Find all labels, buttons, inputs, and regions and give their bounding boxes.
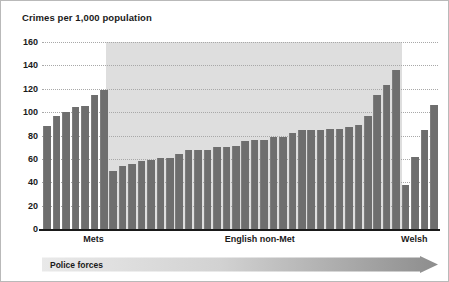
bar [317, 130, 325, 229]
bar [298, 130, 306, 229]
bar [100, 90, 108, 229]
y-tick-label: 160 [23, 37, 38, 47]
y-tick-label: 60 [28, 154, 38, 164]
bar [326, 129, 334, 230]
bar [72, 107, 80, 229]
bar [119, 166, 127, 229]
arrow-label: Police forces [50, 260, 103, 270]
y-tick-label: 140 [23, 60, 38, 70]
x-group-label-mets: Mets [83, 234, 104, 244]
bar [138, 161, 146, 229]
bar [336, 129, 344, 230]
bar [204, 150, 212, 229]
bar [213, 147, 221, 229]
bar [402, 185, 410, 229]
bar [421, 130, 429, 229]
bar [81, 106, 89, 229]
bar [307, 130, 315, 229]
bar [289, 133, 297, 229]
bar [175, 154, 183, 229]
bar [62, 112, 70, 229]
y-tick-label: 80 [28, 131, 38, 141]
y-axis: 020406080100120140160 [1, 42, 38, 229]
x-group-label-english-non-met: English non-Met [225, 234, 295, 244]
bar [355, 125, 363, 229]
bar [223, 147, 231, 229]
bar [232, 146, 240, 229]
bar [241, 141, 249, 229]
bar [373, 95, 381, 229]
bar [194, 150, 202, 229]
x-axis-line [39, 229, 440, 231]
bar [411, 157, 419, 229]
chart-title: Crimes per 1,000 population [22, 12, 152, 23]
plot-area [42, 42, 438, 229]
bar [251, 140, 259, 229]
bar [430, 105, 438, 229]
x-axis-group-labels: MetsEnglish non-MetWelsh [42, 234, 438, 248]
bar [392, 70, 400, 229]
bar [260, 140, 268, 229]
bar [279, 137, 287, 229]
y-tick-label: 100 [23, 107, 38, 117]
bar [157, 158, 165, 229]
bar-series [42, 42, 438, 229]
chart-figure: Crimes per 1,000 population 020406080100… [0, 0, 449, 282]
y-tick-label: 20 [28, 201, 38, 211]
bar [109, 171, 117, 229]
bar [185, 150, 193, 229]
bar [383, 85, 391, 229]
bar [270, 137, 278, 229]
police-forces-arrow: Police forces [42, 256, 438, 273]
y-tick-label: 40 [28, 177, 38, 187]
bar [128, 164, 136, 229]
bar [43, 126, 51, 229]
y-tick-label: 120 [23, 84, 38, 94]
bar [53, 116, 61, 229]
bar [364, 116, 372, 229]
bar [166, 158, 174, 229]
y-tick-label: 0 [33, 224, 38, 234]
bar [345, 127, 353, 229]
bar [147, 160, 155, 229]
x-group-label-welsh: Welsh [401, 234, 427, 244]
bar [91, 95, 99, 229]
